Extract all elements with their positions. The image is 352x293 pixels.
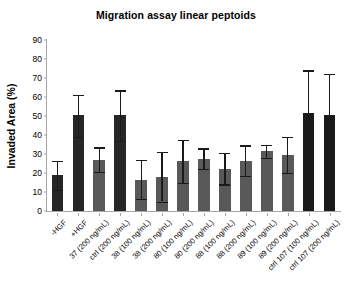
error-bar-line: [329, 74, 330, 155]
bar-slot: [68, 40, 89, 211]
bar-slot: [110, 40, 131, 211]
error-bar-cap-lower: [115, 141, 126, 142]
x-tick-mark: [57, 213, 58, 216]
bar-slot: [152, 40, 173, 211]
bar-slot: [214, 40, 235, 211]
error-bar-cap-lower: [52, 190, 63, 191]
x-tick-mark: [288, 213, 289, 216]
x-tick-mark: [162, 213, 163, 216]
error-bar-cap-lower: [219, 184, 230, 185]
bar-slot: [256, 40, 277, 211]
error-bar-cap-upper: [157, 152, 168, 153]
error-bar-cap-upper: [261, 145, 272, 146]
error-bar-line: [120, 90, 121, 140]
bar: [261, 151, 273, 211]
error-bar-line: [224, 153, 225, 184]
error-bar-cap-upper: [115, 90, 126, 91]
error-bar-cap-lower: [94, 172, 105, 173]
y-axis-label: Invaded Area (%): [5, 83, 17, 168]
x-tick-mark: [99, 213, 100, 216]
error-bar-cap-lower: [178, 183, 189, 184]
error-bar-cap-upper: [219, 153, 230, 154]
error-bar-cap-lower: [73, 137, 84, 138]
error-bar-cap-lower: [157, 202, 168, 203]
error-bar-cap-lower: [303, 159, 314, 160]
x-tick-label: -HGF: [49, 218, 68, 237]
bar-slot: [277, 40, 298, 211]
x-tick-label-text: -HGF: [49, 218, 68, 237]
bar-slot: [235, 40, 256, 211]
error-bar-cap-upper: [52, 161, 63, 162]
error-bar-line: [161, 152, 162, 201]
x-axis-line: [46, 211, 341, 212]
error-bar-line: [203, 148, 204, 169]
x-tick-mark: [267, 213, 268, 216]
error-bar-cap-upper: [324, 74, 335, 75]
error-bar-cap-upper: [282, 137, 293, 138]
plot-area: Invaded Area (%) 0102030405060708090: [47, 40, 340, 211]
x-tick-mark: [120, 213, 121, 216]
migration-assay-bar-chart: Migration assay linear peptoids Invaded …: [0, 0, 352, 293]
x-tick-mark: [309, 213, 310, 216]
bar-slot: [298, 40, 319, 211]
error-bar-cap-lower: [324, 155, 335, 156]
error-bar-cap-upper: [136, 160, 147, 161]
error-bar-line: [141, 160, 142, 199]
x-tick-mark: [141, 213, 142, 216]
error-bar-cap-lower: [198, 169, 209, 170]
error-bar-line: [308, 70, 309, 158]
bar-slot: [194, 40, 215, 211]
error-bar-cap-upper: [73, 95, 84, 96]
chart-title: Migration assay linear peptoids: [0, 9, 352, 21]
error-bar-line: [266, 145, 267, 158]
error-bar-cap-lower: [282, 173, 293, 174]
error-bar-line: [99, 147, 100, 172]
bar-slot: [47, 40, 68, 211]
bar-slot: [319, 40, 340, 211]
error-bar-line: [78, 95, 79, 137]
error-bar-cap-upper: [198, 148, 209, 149]
x-tick-mark: [246, 213, 247, 216]
error-bar-cap-upper: [240, 145, 251, 146]
x-tick-mark: [204, 213, 205, 216]
error-bar-line: [57, 161, 58, 190]
error-bar-cap-lower: [261, 158, 272, 159]
error-bar-line: [287, 137, 288, 173]
bar-slot: [89, 40, 110, 211]
x-tick-mark: [78, 213, 79, 216]
error-bar-cap-lower: [240, 176, 251, 177]
x-tick-mark: [225, 213, 226, 216]
bar-slot: [173, 40, 194, 211]
bars-group: [47, 40, 340, 211]
error-bar-line: [245, 145, 246, 175]
error-bar-cap-lower: [136, 199, 147, 200]
error-bar-cap-upper: [178, 140, 189, 141]
bar-slot: [131, 40, 152, 211]
error-bar-line: [182, 140, 183, 183]
x-tick-mark: [183, 213, 184, 216]
error-bar-cap-upper: [94, 147, 105, 148]
error-bar-cap-upper: [303, 70, 314, 71]
x-axis-tick-labels: -HGF+HGF37 (200 ng/mL)ctrl (200 ng/mL)38…: [47, 213, 340, 293]
x-tick-mark: [330, 213, 331, 216]
